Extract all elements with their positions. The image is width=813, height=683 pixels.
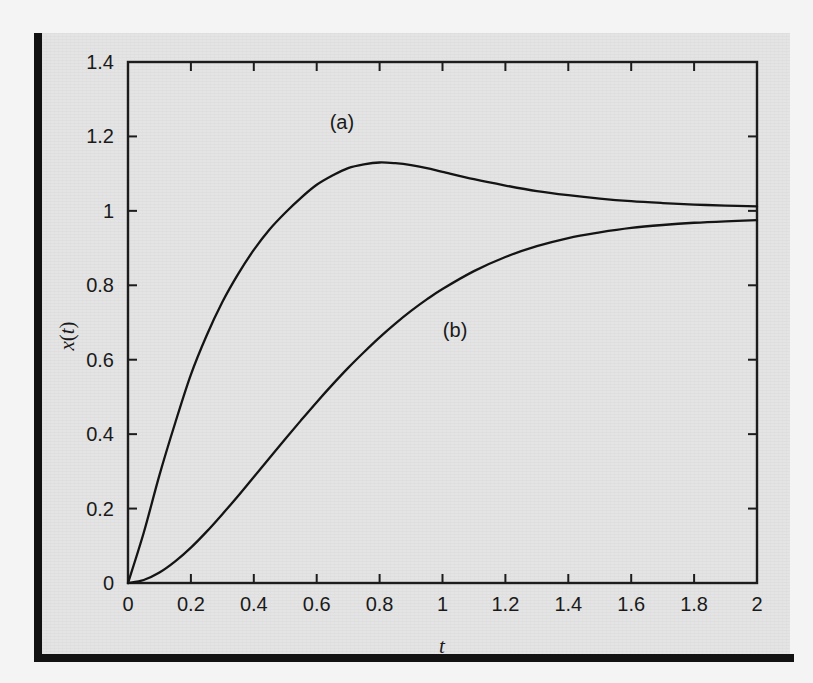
x-tick-label: 1.2 bbox=[491, 593, 519, 615]
y-axis-tick-marks-right bbox=[748, 62, 757, 583]
step-response-chart: 00.20.40.60.811.21.41.61.82 00.20.40.60.… bbox=[0, 0, 813, 683]
y-tick-label: 0.6 bbox=[86, 349, 114, 371]
x-tick-label: 0.2 bbox=[177, 593, 205, 615]
x-tick-label: 0.6 bbox=[303, 593, 331, 615]
x-axis-title: t bbox=[439, 634, 446, 658]
svg-text:x(t): x(t) bbox=[55, 321, 79, 351]
y-tick-label: 1 bbox=[103, 200, 114, 222]
x-tick-label: 2 bbox=[751, 593, 762, 615]
y-tick-label: 0.8 bbox=[86, 274, 114, 296]
curve-b bbox=[128, 220, 757, 583]
x-tick-label: 0 bbox=[122, 593, 133, 615]
x-axis-tick-marks-top bbox=[128, 62, 757, 71]
x-axis-tick-labels: 00.20.40.60.811.21.41.61.82 bbox=[122, 593, 762, 615]
y-tick-label: 1.2 bbox=[86, 125, 114, 147]
y-axis-tick-marks bbox=[128, 62, 137, 583]
x-tick-label: 1.4 bbox=[554, 593, 582, 615]
x-tick-label: 1.6 bbox=[617, 593, 645, 615]
curve-b-label: (b) bbox=[443, 319, 467, 341]
x-tick-label: 1 bbox=[437, 593, 448, 615]
y-tick-label: 0.4 bbox=[86, 423, 114, 445]
x-axis-tick-marks bbox=[128, 574, 757, 583]
y-tick-label: 1.4 bbox=[86, 51, 114, 73]
x-tick-label: 0.8 bbox=[366, 593, 394, 615]
y-tick-label: 0 bbox=[103, 572, 114, 594]
y-tick-label: 0.2 bbox=[86, 498, 114, 520]
x-tick-label: 1.8 bbox=[680, 593, 708, 615]
y-axis-title: x(t) bbox=[55, 321, 79, 351]
curve-a-label: (a) bbox=[330, 111, 354, 133]
svg-text:t: t bbox=[439, 634, 446, 658]
scanned-figure-page: 00.20.40.60.811.21.41.61.82 00.20.40.60.… bbox=[0, 0, 813, 683]
y-axis-tick-labels: 00.20.40.60.811.21.4 bbox=[86, 51, 114, 594]
x-tick-label: 0.4 bbox=[240, 593, 268, 615]
